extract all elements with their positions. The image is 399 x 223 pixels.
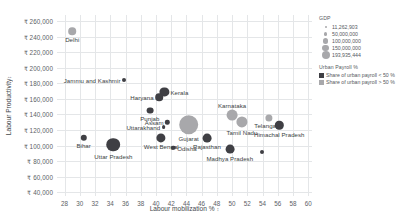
y-tick-label: ₹ 140,000 (24, 111, 57, 118)
y-tick-label: ₹ 220,000 (24, 49, 57, 56)
scatter-point[interactable] (179, 115, 199, 135)
legend-size-rows: 11,262,90350,000,000100,000,000150,000,0… (319, 23, 399, 59)
scatter-point[interactable] (162, 125, 166, 129)
legend-bubble-swatch (319, 26, 332, 28)
point-label: Haryana (130, 94, 153, 101)
y-tick-label: ₹ 160,000 (24, 95, 57, 102)
scatter-point[interactable] (260, 150, 264, 154)
legend-bubble-swatch (319, 38, 332, 43)
point-label: Delhi (65, 36, 79, 43)
point-label: Tamil Nadu (226, 129, 257, 136)
y-tick-label: ₹ 120,000 (24, 126, 57, 133)
gridline-horizontal (57, 161, 312, 162)
legend-group-urban-payroll: Urban Payroll % Share of urban payroll <… (319, 64, 399, 86)
scatter-point[interactable] (155, 94, 163, 102)
point-label: Uttarakhand (126, 123, 160, 130)
gridline-horizontal (57, 99, 312, 100)
gridline-vertical (171, 15, 172, 196)
scatter-point[interactable] (122, 78, 126, 82)
legend-size-item[interactable]: 100,000,000 (319, 37, 399, 44)
point-label: Karnataka (218, 102, 246, 109)
y-tick-label: ₹ 240,000 (24, 33, 57, 40)
legend-color-item[interactable]: Share of urban payroll > 50 % (319, 79, 399, 86)
y-axis-title-text: Labour Productivity (5, 79, 12, 135)
point-label: Odisha (177, 144, 197, 151)
point-label: Uttar Pradesh (94, 153, 132, 160)
gridline-horizontal (57, 177, 312, 178)
legend-size-item[interactable]: 11,262,903 (319, 23, 399, 30)
scatter-point[interactable] (225, 145, 234, 154)
scatter-point[interactable] (203, 133, 212, 142)
legend-bubble-icon (322, 51, 330, 59)
scatter-point[interactable] (265, 114, 272, 121)
legend-size-value: 50,000,000 (332, 31, 358, 37)
legend-size-item[interactable]: 50,000,000 (319, 30, 399, 37)
gridline-vertical (202, 15, 203, 196)
gridline-vertical (156, 15, 157, 196)
legend-size-value: 150,000,000 (332, 45, 361, 51)
gridline-horizontal (57, 52, 312, 53)
gridline-vertical (186, 15, 187, 196)
y-tick-label: ₹ 260,000 (24, 18, 57, 25)
point-label: Gujarat (179, 135, 199, 142)
scatter-point[interactable] (68, 28, 76, 36)
legend-color-swatch (319, 80, 324, 85)
legend-bubble-swatch (319, 32, 332, 36)
gridline-vertical (263, 15, 264, 196)
legend-group-gdp: GDP 11,262,90350,000,000100,000,000150,0… (319, 15, 399, 59)
legend-bubble-icon (325, 26, 327, 28)
gridline-vertical (95, 15, 96, 196)
legend-bubble-swatch (319, 51, 332, 59)
gridline-horizontal (57, 192, 312, 193)
point-label: Jammu and Kashmir (64, 77, 121, 84)
x-axis-title: Labour mobilization %↕ (57, 205, 312, 212)
legend-color-swatch (319, 73, 324, 78)
legend-size-value: 11,262,903 (332, 24, 358, 30)
legend-bubble-icon (324, 32, 328, 36)
gridline-horizontal (57, 37, 312, 38)
x-axis-title-text: Labour mobilization % (150, 205, 215, 212)
plot-area: ₹ 40,000₹ 60,000₹ 80,000₹ 100,000₹ 120,0… (57, 15, 312, 196)
gridline-vertical (278, 15, 279, 196)
y-tick-label: ₹ 180,000 (24, 80, 57, 87)
gridline-horizontal (57, 21, 312, 22)
legend-color-rows: Share of urban payroll < 50 %Share of ur… (319, 72, 399, 86)
scatter-point[interactable] (165, 120, 169, 124)
gridline-vertical (247, 15, 248, 196)
scatter-point[interactable] (107, 138, 121, 152)
legend-size-value: 193,935,444 (332, 52, 361, 58)
scatter-point[interactable] (157, 133, 166, 142)
point-label: Bihar (76, 142, 90, 149)
point-label: Madhya Pradesh (206, 155, 253, 162)
point-label: Himachal Pradesh (254, 131, 305, 138)
x-axis-sort-icon: ↕ (217, 206, 220, 212)
legend-bubble-icon (323, 38, 328, 43)
legend-title-urban-payroll: Urban Payroll % (319, 64, 399, 70)
legend-size-item[interactable]: 193,935,444 (319, 52, 399, 59)
gridline-vertical (126, 15, 127, 196)
legend-color-label: Share of urban payroll > 50 % (326, 79, 395, 85)
legend-color-item[interactable]: Share of urban payroll < 50 % (319, 72, 399, 79)
y-tick-label: ₹ 80,000 (27, 158, 57, 165)
point-label: Kerala (170, 88, 188, 95)
scatter-point[interactable] (236, 117, 247, 128)
gridline-vertical (80, 15, 81, 196)
y-axis-sort-icon: ↕ (6, 76, 12, 79)
chart-container: Labour Productivity↕ ₹ 40,000₹ 60,000₹ 8… (0, 0, 399, 223)
y-tick-label: ₹ 60,000 (27, 173, 57, 180)
y-tick-label: ₹ 200,000 (24, 64, 57, 71)
y-tick-label: ₹ 100,000 (24, 142, 57, 149)
gridline-vertical (308, 15, 309, 196)
gridline-horizontal (57, 68, 312, 69)
scatter-point[interactable] (146, 107, 153, 114)
gridline-vertical (110, 15, 111, 196)
chart-legend: GDP 11,262,90350,000,000100,000,000150,0… (319, 15, 399, 86)
point-label: Rajasthan (193, 143, 221, 150)
scatter-point[interactable] (80, 135, 86, 141)
legend-size-value: 100,000,000 (332, 38, 361, 44)
y-axis-title: Labour Productivity↕ (2, 15, 14, 196)
y-tick-label: ₹ 40,000 (27, 189, 57, 196)
gridline-vertical (141, 15, 142, 196)
legend-title-gdp: GDP (319, 15, 399, 21)
gridline-vertical (293, 15, 294, 196)
